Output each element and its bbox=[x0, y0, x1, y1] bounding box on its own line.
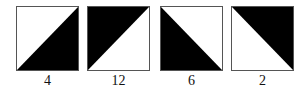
tile-4-label: 2 bbox=[232, 74, 293, 88]
tile-3-label: 6 bbox=[161, 74, 222, 88]
tile-3 bbox=[160, 6, 223, 71]
tile-1 bbox=[16, 6, 79, 71]
tile-4 bbox=[231, 6, 294, 71]
half-shaded-square-bottom-left-icon bbox=[161, 7, 222, 70]
half-shaded-square-top-right-icon bbox=[232, 7, 293, 70]
half-shaded-square-top-left-icon bbox=[88, 7, 149, 70]
tile-2-label: 12 bbox=[88, 74, 149, 88]
half-shaded-square-bottom-right-icon bbox=[17, 7, 78, 70]
tile-1-label: 4 bbox=[17, 74, 78, 88]
tile-2 bbox=[87, 6, 150, 71]
